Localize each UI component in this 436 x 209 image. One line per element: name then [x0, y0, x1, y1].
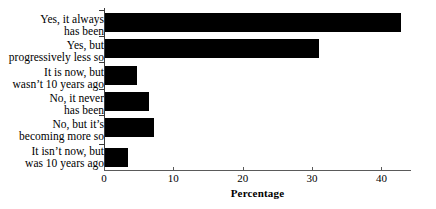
category-label-1: Yes, but progressively less so	[0, 40, 104, 63]
x-tick-label-2: 20	[228, 172, 258, 184]
y-axis-line	[104, 8, 105, 170]
x-tick-label-1: 10	[158, 172, 188, 184]
category-label-2: It is now, but wasn’t 10 years ago	[0, 67, 104, 90]
x-tick-2	[243, 167, 244, 170]
x-tick-label-4: 40	[366, 172, 396, 184]
bar-5	[104, 148, 128, 167]
y-tick-3	[99, 89, 104, 90]
y-tick-0	[99, 10, 104, 11]
category-label-5: It isn’t now, but was 10 years ago	[0, 146, 104, 169]
bar-chart: Yes, it always has been Yes, but progres…	[0, 0, 436, 209]
x-tick-4	[381, 167, 382, 170]
bar-1	[104, 39, 319, 58]
x-tick-label-3: 30	[297, 172, 327, 184]
x-axis-title: Percentage	[104, 187, 411, 199]
plot-area	[104, 8, 430, 170]
x-tick-1	[173, 167, 174, 170]
bar-4	[104, 118, 154, 137]
category-label-4: No, but it’s becoming more so	[0, 119, 104, 142]
y-tick-5	[99, 144, 104, 145]
x-tick-label-0: 0	[89, 172, 119, 184]
x-tick-0	[104, 167, 105, 170]
category-label-3: No, it never has been	[0, 93, 104, 116]
x-tick-3	[312, 167, 313, 170]
category-label-0: Yes, it always has been	[0, 14, 104, 37]
y-tick-4	[99, 115, 104, 116]
bar-3	[104, 92, 149, 111]
y-tick-1	[99, 36, 104, 37]
y-tick-2	[99, 62, 104, 63]
bar-0	[104, 13, 401, 32]
bar-2	[104, 66, 137, 85]
x-axis-line	[104, 170, 411, 171]
